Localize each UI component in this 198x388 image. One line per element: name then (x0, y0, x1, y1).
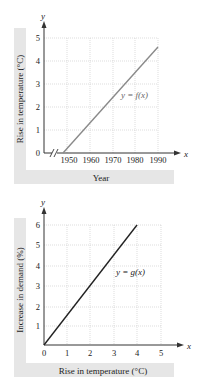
bottom-grid (44, 225, 161, 345)
svg-text:1970: 1970 (105, 155, 122, 165)
svg-text:5: 5 (36, 240, 40, 250)
svg-text:1990: 1990 (150, 155, 167, 165)
top-y-ticks: 5 4 3 2 1 0 (36, 33, 41, 158)
svg-text:5: 5 (36, 33, 40, 43)
top-y-label: Rise in temperature (°C) (15, 55, 25, 143)
top-x-label: Year (93, 173, 110, 183)
svg-text:5: 5 (159, 348, 163, 358)
svg-text:4: 4 (135, 348, 140, 358)
svg-text:1: 1 (36, 321, 40, 331)
charts-figure: 5 4 3 2 1 0 1950 1960 1970 1980 1990 y x… (0, 0, 198, 388)
svg-text:1980: 1980 (127, 155, 144, 165)
svg-text:2: 2 (36, 302, 40, 312)
g-line (44, 225, 137, 345)
top-x-symbol: x (183, 149, 188, 159)
bottom-x-label: Rise in temperature (°C) (59, 366, 147, 376)
svg-text:6: 6 (36, 220, 40, 230)
svg-text:4: 4 (36, 261, 41, 271)
svg-text:3: 3 (36, 281, 40, 291)
svg-text:1950: 1950 (61, 155, 78, 165)
bottom-y-ticks: 6 5 4 3 2 1 (36, 220, 41, 331)
bottom-y-label: Increase in demand (%) (15, 247, 25, 333)
bottom-x-arrow-icon (177, 343, 184, 348)
bottom-chart: 6 5 4 3 2 1 0 1 2 3 4 5 y x y = g(x) Ris… (14, 197, 191, 377)
svg-text:2: 2 (88, 348, 92, 358)
svg-text:3: 3 (112, 348, 116, 358)
svg-text:1: 1 (65, 348, 69, 358)
f-line (63, 47, 158, 153)
svg-text:1960: 1960 (83, 155, 100, 165)
top-y-arrow-icon (42, 21, 47, 28)
f-annotation: y = f(x) (120, 90, 148, 100)
top-y-symbol: y (40, 11, 45, 21)
svg-text:1: 1 (36, 125, 40, 135)
svg-text:3: 3 (36, 79, 40, 89)
svg-text:4: 4 (36, 56, 41, 66)
bottom-y-symbol: y (40, 197, 45, 207)
svg-text:0: 0 (42, 348, 46, 358)
top-chart: 5 4 3 2 1 0 1950 1960 1970 1980 1990 y x… (14, 11, 188, 184)
bottom-x-symbol: x (186, 341, 191, 351)
bottom-x-ticks: 0 1 2 3 4 5 (42, 348, 163, 358)
top-x-arrow-icon (174, 151, 181, 156)
top-x-ticks: 1950 1960 1970 1980 1990 (61, 155, 167, 165)
svg-text:2: 2 (36, 102, 40, 112)
svg-text:0: 0 (36, 148, 40, 158)
g-annotation: y = g(x) (115, 267, 145, 277)
bottom-y-arrow-icon (42, 207, 47, 214)
